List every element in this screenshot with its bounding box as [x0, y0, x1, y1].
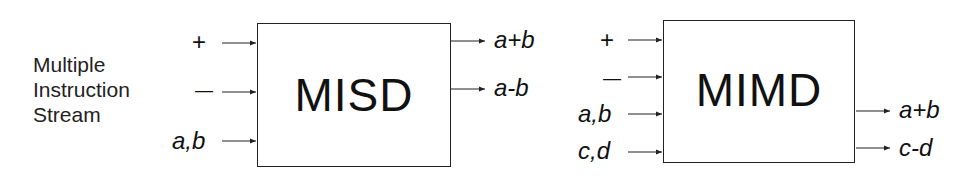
arrow-lines [0, 0, 974, 176]
